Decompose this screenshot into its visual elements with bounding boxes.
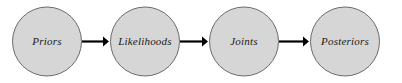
edge-likelihoods-to-joints [180, 37, 208, 47]
edge-joints-to-posteriors [279, 37, 309, 47]
arrowhead-icon [303, 37, 309, 47]
arrowhead-icon [103, 37, 109, 47]
node-joints[interactable]: Joints [210, 7, 279, 76]
node-label-likelihoods: Likelihoods [117, 35, 172, 47]
node-posteriors[interactable]: Posteriors [311, 7, 380, 76]
node-likelihoods[interactable]: Likelihoods [111, 7, 180, 76]
flow-diagram: Priors Likelihoods Joints Posteriors [0, 0, 402, 83]
node-label-joints: Joints [230, 35, 257, 47]
edge-priors-to-likelihoods [82, 37, 109, 47]
arrowhead-icon [202, 37, 208, 47]
flow-diagram-canvas: Priors Likelihoods Joints Posteriors [0, 0, 402, 83]
node-priors[interactable]: Priors [13, 7, 82, 76]
node-label-posteriors: Posteriors [320, 35, 369, 47]
node-label-priors: Priors [31, 35, 61, 47]
